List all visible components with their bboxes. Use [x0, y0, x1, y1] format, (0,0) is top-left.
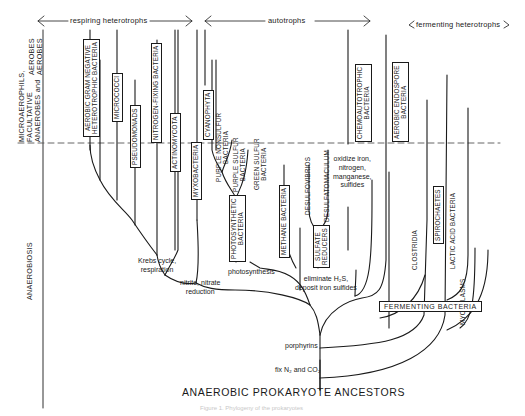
taxon-chemoautotrophic: CHEMOAUTOTROPHIC BACTERIA [355, 64, 372, 142]
taxon-pseudomonads: PSEUDOMONADS [130, 105, 141, 168]
note-eliminate-h2s: eliminate H₂S, deposit iron sulfides [295, 275, 357, 293]
taxon-desulfatomaculum: DESULFATOMACULUM [324, 150, 331, 222]
taxon-photosynthetic-bacteria: PHOTOSYNTHETIC BACTERIA [229, 195, 246, 262]
zone-aerobes: AEROBES AEROBES [28, 25, 44, 75]
taxon-micrococci: MICROCOCCI [112, 73, 123, 122]
taxon-lactic-acid: LACTIC ACID BACTERIA [450, 193, 457, 269]
taxon-sulfate-reducers: SULFATE REDUCERS [313, 225, 330, 268]
note-krebs-cycle: Krebs cycle, respiration [138, 257, 176, 275]
taxon-clostridia: CLOSTRIDIA [412, 230, 419, 270]
taxon-cyanophyta: CYANOPHYTA [203, 90, 214, 140]
taxon-myxobacteria: MYXOBACTERIA [191, 142, 202, 200]
note-photosynthesis: photosynthesis [228, 268, 275, 277]
taxon-aerobic-gram-negative: AEROBIC GRAM NEGATIVE HETEROTROPHIC BACT… [83, 39, 100, 137]
taxon-aerobic-endospore: AEROBIC ENDOSPORE BACTERIA [392, 62, 409, 142]
tree-lines [0, 0, 525, 416]
category-respiring-heterotrophs: respiring heterotrophs [70, 17, 147, 25]
taxon-nitrogen-fixing: NITROGEN-FIXING BACTERIA [151, 43, 162, 143]
zone-anaerobiosis: ANAEROBIOSIS [26, 220, 34, 300]
note-fix-n2-co2: fix N₂ and CO₂ [275, 366, 321, 375]
taxon-green-sulfur: GREEN SULFUR BACTERIA [254, 138, 267, 190]
category-fermenting-heterotrophs: fermenting heterotrophs [416, 21, 500, 29]
prokaryote-phylogeny-diagram: respiring heterotrophs autotrophs fermen… [0, 0, 525, 416]
taxon-methane-bacteria: METHANE BACTERIA [279, 185, 290, 258]
taxon-purple-nonsulfur: PURPLE NONSULFUR BACTERIA [216, 113, 229, 182]
note-oxidize: oxidize iron, nitrogen, manganese, sulfi… [333, 155, 372, 190]
note-nitrite-reduction: nitrite, nitrate reduction [180, 279, 220, 297]
taxon-actinomycota: ACTINOMYCOTA [170, 113, 181, 172]
category-autotrophs: autotrophs [268, 17, 305, 25]
note-porphyrins: porphyrins [285, 342, 318, 351]
taxon-fermenting-bacteria: FERMENTING BACTERIA [379, 301, 482, 312]
taxon-desulfovibrios: DESULFOVIBRIOS [305, 157, 312, 215]
root-label: ANAEROBIC PROKARYOTE ANCESTORS [182, 387, 405, 398]
taxon-spirochaetes: SPIROCHAETES [433, 186, 444, 244]
figure-caption: Figure 1. Phylogeny of the prokaryotes [200, 405, 303, 411]
taxon-purple-sulfur: PURPLE SULFUR BACTERIA [233, 137, 246, 192]
